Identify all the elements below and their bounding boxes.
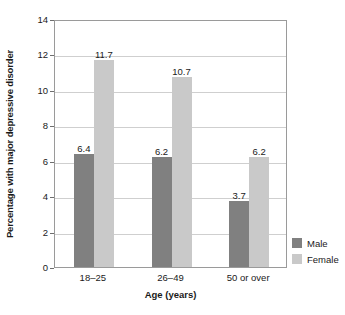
chart-legend: MaleFemale [292,236,339,268]
legend-label: Female [307,254,339,265]
y-tick-label: 2 [24,228,48,238]
bar-male-3 [229,201,249,267]
y-axis-ticks: 02468101214 [24,0,48,315]
y-tick-label: 12 [24,50,48,60]
legend-label: Male [307,238,328,249]
gridline [55,127,286,128]
y-tick-mark [50,268,54,269]
y-tick-label: 8 [24,121,48,131]
legend-item-male: Male [292,236,339,250]
legend-item-female: Female [292,252,339,266]
bar-male-1 [74,154,94,267]
y-axis-title: Percentage with major depressive disorde… [2,4,18,284]
y-tick-label: 10 [24,86,48,96]
y-tick-label: 14 [24,15,48,25]
bar-female-2 [172,77,192,267]
legend-swatch-female [292,254,302,264]
bar-chart-figure: Percentage with major depressive disorde… [0,0,345,315]
bar-female-3 [249,157,269,267]
bar-female-1 [94,60,114,267]
x-axis-title: Age (years) [54,289,287,301]
bar-value-label: 6.2 [243,146,275,157]
x-tick-label: 50 or over [198,272,298,284]
legend-swatch-male [292,238,302,248]
bar-male-2 [152,157,172,267]
y-tick-label: 6 [24,157,48,167]
gridline [55,92,286,93]
plot-area: 6.411.76.210.73.76.2 [54,20,287,268]
bar-value-label: 10.7 [166,66,198,77]
y-tick-label: 4 [24,192,48,202]
bar-value-label: 11.7 [88,49,120,60]
